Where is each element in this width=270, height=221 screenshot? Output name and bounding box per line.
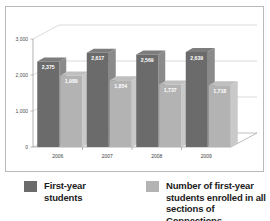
legend-label: Number of first-year students enrolled i… xyxy=(166,180,267,221)
plot-frame: 01,0002,0003,0002,3751,98920062,6171,854… xyxy=(5,6,264,172)
legend-label: First-year students xyxy=(44,180,122,203)
chart-figure: 01,0002,0003,0002,3751,98920062,6171,854… xyxy=(0,0,270,221)
svg-text:2009: 2009 xyxy=(201,153,212,159)
svg-text:1,854: 1,854 xyxy=(114,83,127,89)
legend-swatch-icon xyxy=(146,181,159,192)
svg-text:1,737: 1,737 xyxy=(164,87,177,93)
svg-text:0: 0 xyxy=(25,144,28,150)
svg-text:2008: 2008 xyxy=(151,153,162,159)
svg-text:1,718: 1,718 xyxy=(213,88,226,94)
svg-text:2007: 2007 xyxy=(102,153,113,159)
legend-entry-connections-enrollment: Number of first-year students enrolled i… xyxy=(146,180,267,221)
svg-text:2,639: 2,639 xyxy=(190,55,203,61)
svg-text:2,569: 2,569 xyxy=(141,57,154,63)
svg-text:2,617: 2,617 xyxy=(91,55,104,61)
svg-text:1,989: 1,989 xyxy=(65,78,78,84)
svg-text:2,375: 2,375 xyxy=(42,64,55,70)
svg-text:3,000: 3,000 xyxy=(15,36,28,42)
svg-text:2006: 2006 xyxy=(52,153,63,159)
legend-entry-first-year-students: First-year students xyxy=(24,180,122,203)
svg-text:1,000: 1,000 xyxy=(15,108,28,114)
svg-text:2,000: 2,000 xyxy=(15,72,28,78)
legend-swatch-icon xyxy=(24,181,37,192)
bar-chart-3d: 01,0002,0003,0002,3751,98920062,6171,854… xyxy=(6,7,263,171)
chart-legend: First-year students Number of first-year… xyxy=(5,180,267,220)
